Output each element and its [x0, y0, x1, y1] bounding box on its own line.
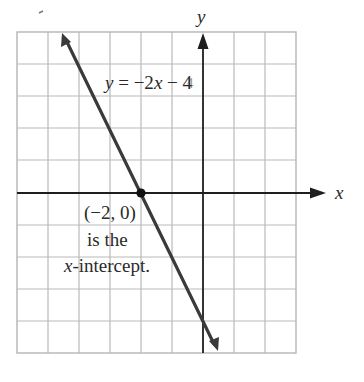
point-description-line1: is the [87, 229, 128, 250]
equation-tail: − 4 [162, 72, 192, 93]
stray-mark [39, 11, 43, 13]
point-description-rest: -intercept. [72, 255, 150, 276]
equation-label: y = −2x − 4 [103, 72, 193, 93]
point-coordinate-label: (−2, 0) [84, 202, 136, 224]
point-description-line2: x-intercept. [63, 255, 150, 276]
y-axis-arrow-icon [198, 33, 209, 49]
y-axis-label: y [195, 6, 206, 27]
coordinate-graph: 4 x y y = −2x − 4 (−2, 0) is the x-inter… [0, 0, 364, 382]
x-axis-arrow-icon [310, 188, 326, 199]
equation-middle: = −2 [113, 72, 153, 93]
x-axis-label: x [334, 182, 344, 203]
equation-y: y [103, 72, 114, 93]
x-intercept-point [136, 188, 145, 197]
